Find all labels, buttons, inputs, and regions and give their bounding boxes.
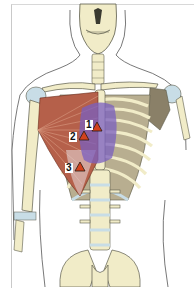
marker-label-1: 1 (85, 120, 93, 130)
cervical-spine (92, 54, 104, 84)
skull (80, 4, 117, 54)
marker-label-2: 2 (69, 132, 77, 142)
scapula (148, 88, 170, 130)
marker-label-3: 3 (65, 163, 73, 173)
pelvis (60, 250, 140, 287)
